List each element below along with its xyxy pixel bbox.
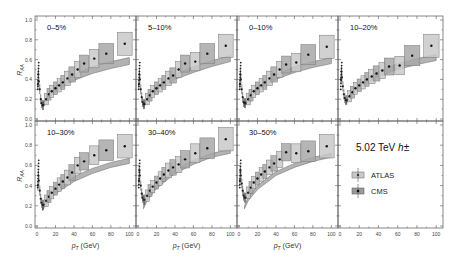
- centrality-label: 30–50%: [249, 128, 277, 137]
- panel-3: 0–10%: [237, 16, 338, 121]
- y-axis-title-bottom: RAA: [16, 169, 25, 181]
- data-point: [273, 162, 275, 164]
- data-point: [194, 152, 196, 154]
- data-point: [307, 53, 309, 55]
- x-tick-label: 20: [255, 231, 261, 237]
- data-point: [163, 81, 165, 83]
- data-point: [51, 191, 53, 193]
- x-tick-label: 80: [108, 231, 114, 237]
- panel-7: 020406080100pT (GeV)30–50%: [237, 121, 338, 251]
- y-tick-label: 0.2: [25, 96, 32, 102]
- data-point: [354, 87, 356, 89]
- data-point: [62, 81, 64, 83]
- data-point: [184, 62, 186, 64]
- y-tick-label: 0.2: [25, 203, 32, 209]
- data-point: [295, 61, 297, 63]
- x-tick-label: 80: [414, 231, 420, 237]
- y-tick-label: 0.6: [25, 57, 32, 63]
- data-point: [167, 169, 169, 171]
- x-tick-label: 0: [137, 231, 140, 237]
- data-point: [194, 60, 196, 62]
- centrality-label: 0–10%: [249, 23, 273, 32]
- data-point: [76, 164, 78, 166]
- data-point: [366, 78, 368, 80]
- data-point: [177, 163, 179, 165]
- data-point: [71, 73, 73, 75]
- data-point: [155, 181, 157, 183]
- data-point: [264, 81, 266, 83]
- x-tick-label: 60: [395, 231, 401, 237]
- panel-4: 10–20%: [338, 16, 443, 121]
- data-point: [167, 77, 169, 79]
- data-point: [206, 147, 208, 149]
- data-point: [206, 52, 208, 54]
- x-tick-label: 40: [172, 231, 178, 237]
- data-point: [184, 158, 186, 160]
- data-point: [273, 73, 275, 75]
- lowpt-point: [140, 88, 142, 90]
- lowpt-point: [39, 190, 41, 192]
- x-tick-label: 20: [356, 231, 362, 237]
- atlas-marker-icon: [357, 174, 359, 176]
- data-point: [124, 43, 126, 45]
- x-tick-label: 100: [226, 231, 235, 237]
- data-point: [124, 145, 126, 147]
- data-point: [326, 46, 328, 48]
- data-point: [256, 177, 258, 179]
- data-point: [411, 54, 413, 56]
- data-point: [398, 64, 400, 66]
- lowpt-point: [39, 88, 41, 90]
- y-tick-label: 0.8: [25, 142, 32, 148]
- data-point: [58, 84, 60, 86]
- centrality-label: 10–20%: [350, 23, 378, 32]
- data-point: [375, 72, 377, 74]
- data-point: [105, 149, 107, 151]
- raa-panel-figure: 0.00.20.40.60.81.00–5%5–10%0–10%10–20%0.…: [0, 0, 457, 258]
- x-tick-label: 100: [327, 231, 336, 237]
- data-point: [159, 84, 161, 86]
- data-point: [264, 170, 266, 172]
- panel-1: 0.00.20.40.60.81.00–5%: [25, 16, 136, 122]
- data-point: [155, 87, 157, 89]
- centrality-label: 5–10%: [148, 23, 172, 32]
- cms-marker-icon: [357, 190, 360, 193]
- data-point: [278, 158, 280, 160]
- legend-entry-atlas: ATLAS: [352, 168, 394, 182]
- panel-6: 020406080100pT (GeV)30–40%: [136, 121, 237, 251]
- data-point: [295, 152, 297, 154]
- data-point: [71, 171, 73, 173]
- y-axis-title-top: RAA: [16, 63, 25, 75]
- data-point: [326, 145, 328, 147]
- centrality-label: 10–30%: [47, 128, 75, 137]
- data-point: [285, 63, 287, 65]
- lowpt-point: [143, 103, 145, 105]
- data-point: [152, 90, 154, 92]
- x-tick-label: 40: [71, 231, 77, 237]
- panel-5: 0.00.20.40.60.81.0020406080100pT (GeV)10…: [25, 121, 136, 251]
- legend-entry-cms: CMS: [352, 184, 388, 198]
- data-point: [76, 68, 78, 70]
- data-point: [83, 62, 85, 64]
- svg-text:RAA: RAA: [16, 169, 25, 181]
- data-point: [225, 45, 227, 47]
- y-tick-label: 0.6: [25, 162, 32, 168]
- x-axis-title: pT (GeV): [71, 242, 100, 251]
- lowpt-point: [244, 102, 246, 104]
- legend-atlas-label: ATLAS: [371, 171, 394, 180]
- data-point: [62, 180, 64, 182]
- data-point: [381, 69, 383, 71]
- y-tick-label: 0.4: [25, 183, 32, 189]
- lowpt-point: [342, 85, 344, 87]
- lowpt-point: [244, 197, 246, 199]
- x-tick-label: 60: [191, 231, 197, 237]
- lowpt-point: [241, 88, 243, 90]
- data-point: [54, 87, 56, 89]
- centrality-label: 0–5%: [47, 23, 67, 32]
- x-tick-label: 20: [53, 231, 59, 237]
- lowpt-point: [241, 182, 243, 184]
- data-point: [93, 57, 95, 59]
- data-point: [159, 177, 161, 179]
- x-tick-label: 0: [238, 231, 241, 237]
- x-axis-title: pT (GeV): [172, 242, 201, 251]
- data-point: [285, 151, 287, 153]
